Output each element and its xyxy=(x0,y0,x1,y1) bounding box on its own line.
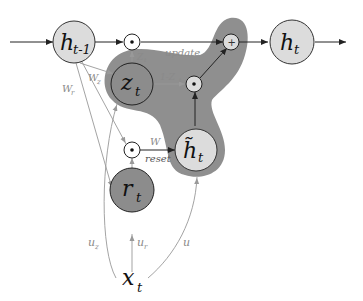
svg-text:t: t xyxy=(137,280,143,295)
op-add: + xyxy=(223,34,239,50)
node-h-t: h t xyxy=(270,20,314,64)
svg-text:r: r xyxy=(144,243,148,251)
op-mult-mid xyxy=(186,76,202,92)
gru-diagram-canvas: h t-1 h t z t r t h̃ t x t + xyxy=(0,0,363,301)
edge-u xyxy=(148,177,197,278)
op-mult-reset xyxy=(124,142,140,158)
label-Wr: W r xyxy=(62,83,75,97)
svg-text:t: t xyxy=(198,150,204,165)
node-r-t: r t xyxy=(110,168,154,212)
svg-text:z: z xyxy=(94,243,99,251)
node-h-prev: h t-1 xyxy=(53,21,95,63)
svg-text:t: t xyxy=(294,42,300,57)
node-h-tilde: h̃ t xyxy=(175,129,217,171)
svg-text:x: x xyxy=(122,265,135,290)
svg-text:r: r xyxy=(71,89,75,97)
svg-text:t-1: t-1 xyxy=(73,42,91,57)
svg-text:1-Z: 1-Z xyxy=(160,72,176,82)
svg-text:h: h xyxy=(280,30,294,55)
svg-text:z: z xyxy=(96,78,101,86)
svg-text:t: t xyxy=(136,190,142,205)
svg-text:z: z xyxy=(120,70,133,95)
svg-text:t: t xyxy=(135,84,141,99)
label-u: u xyxy=(183,236,190,249)
label-uz: u z xyxy=(88,236,99,251)
label-Wz: W z xyxy=(88,72,101,86)
label-reset: reset xyxy=(145,153,172,164)
node-x-t: x t xyxy=(122,265,143,295)
svg-text:+: + xyxy=(228,37,236,48)
svg-text:r: r xyxy=(122,176,134,201)
op-mult-top xyxy=(124,34,140,50)
svg-text:h̃: h̃ xyxy=(183,137,197,163)
label-ur: u r xyxy=(137,236,148,251)
node-z-t: z t xyxy=(111,63,153,105)
label-update: update xyxy=(165,47,200,58)
label-W: W xyxy=(150,136,161,147)
svg-text:Z: Z xyxy=(136,52,144,62)
gru-diagram: h t-1 h t z t r t h̃ t x t + xyxy=(0,0,363,301)
